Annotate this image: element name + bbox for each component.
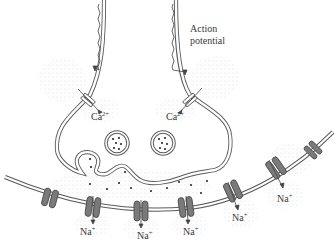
na-5-symbol: Na [277,193,289,204]
ion-clouds [38,56,312,240]
action-potential-line1: Action [190,24,225,34]
action-potential-line2: potential [190,36,225,46]
na-1-charge: + [92,225,96,232]
action-potential-label: Action potential [190,24,225,46]
na-label-3: Na+ [183,226,198,237]
action-potential-arrows [93,4,187,75]
na-4-symbol: Na [232,212,244,223]
na-2-charge: + [149,229,153,236]
na-label-2: Na+ [137,230,152,241]
ca-left-charge: 2+ [102,110,109,117]
na-label-5: Na+ [277,193,292,204]
na-5-charge: + [289,192,293,199]
na-label-4: Na+ [232,212,247,223]
synaptic-vesicles [106,132,174,154]
ca-right-symbol: Ca [166,111,177,122]
na-3-charge: + [195,225,199,232]
ca-left-symbol: Ca [91,111,102,122]
ca-label-left: Ca2+ [91,111,109,122]
na-1-symbol: Na [80,226,92,237]
na-2-symbol: Na [137,230,149,241]
ca-label-right: Ca2+ [166,111,184,122]
ca-right-charge: 2+ [177,110,184,117]
na-label-1: Na+ [80,226,95,237]
na-3-symbol: Na [183,226,195,237]
na-4-charge: + [244,211,248,218]
